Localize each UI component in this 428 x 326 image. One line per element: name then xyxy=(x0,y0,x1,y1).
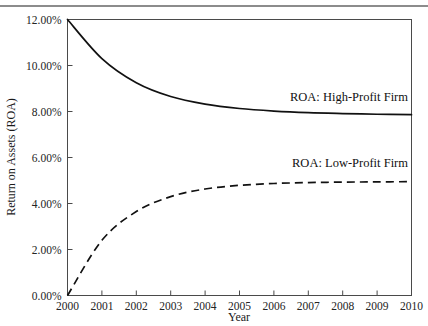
x-tick-label: 2009 xyxy=(366,300,389,312)
roa-chart-figure: 0.00%2.00%4.00%6.00%8.00%10.00%12.00% 20… xyxy=(0,0,428,326)
x-axis-title: Year xyxy=(228,310,250,324)
y-tick-label: 12.00% xyxy=(26,14,62,26)
y-tick-label: 2.00% xyxy=(32,244,62,256)
x-tick-label: 2006 xyxy=(262,300,285,312)
y-axis-tick-labels: 0.00%2.00%4.00%6.00%8.00%10.00%12.00% xyxy=(26,14,62,302)
x-tick-label: 2004 xyxy=(194,300,217,312)
y-tick-label: 6.00% xyxy=(32,152,62,164)
y-axis-title: Return on Assets (ROA) xyxy=(4,98,18,216)
x-tick-label: 2001 xyxy=(90,300,113,312)
y-tick-label: 10.00% xyxy=(26,60,62,72)
y-tick-label: 4.00% xyxy=(32,198,62,210)
x-tick-label: 2002 xyxy=(125,300,148,312)
chart-canvas: 0.00%2.00%4.00%6.00%8.00%10.00%12.00% 20… xyxy=(0,0,428,326)
y-axis-ticks xyxy=(68,20,73,296)
x-tick-label: 2010 xyxy=(400,300,423,312)
x-axis-ticks xyxy=(68,291,412,296)
y-tick-label: 8.00% xyxy=(32,106,62,118)
x-tick-label: 2007 xyxy=(297,300,320,312)
x-tick-label: 2008 xyxy=(331,300,354,312)
x-tick-label: 2003 xyxy=(159,300,182,312)
series-annotation-low-profit-firm: ROA: Low-Profit Firm xyxy=(292,156,408,170)
x-tick-label: 2000 xyxy=(56,300,79,312)
series-line-low-profit-firm xyxy=(68,182,412,296)
series-annotation-high-profit-firm: ROA: High-Profit Firm xyxy=(290,90,408,104)
